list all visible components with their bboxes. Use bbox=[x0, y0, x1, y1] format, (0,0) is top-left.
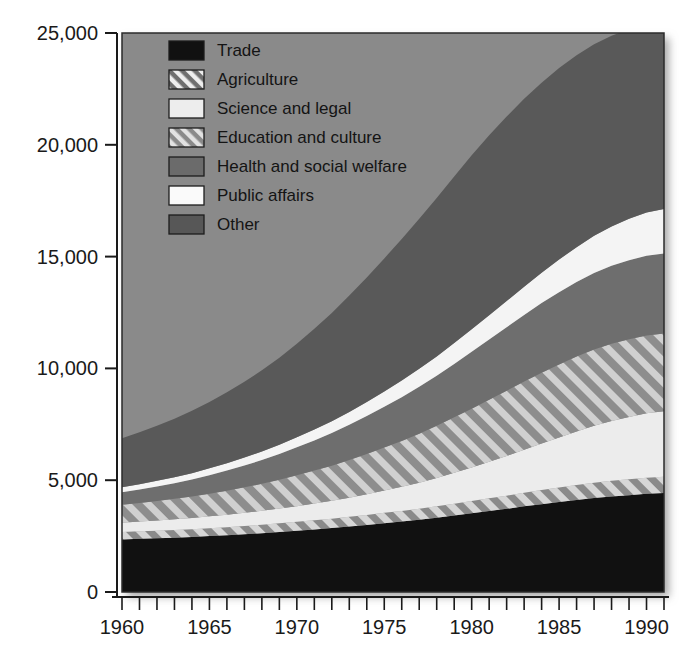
legend-label-public-affairs: Public affairs bbox=[217, 186, 314, 205]
legend-swatch-health-and-social-welfare bbox=[169, 157, 204, 176]
y-tick-label: 25,000 bbox=[37, 22, 98, 44]
x-tick-label: 1990 bbox=[624, 616, 669, 638]
legend-label-education-and-culture: Education and culture bbox=[217, 128, 381, 147]
y-tick-label: 20,000 bbox=[37, 134, 98, 156]
legend-swatch-other bbox=[169, 215, 204, 234]
legend-label-trade: Trade bbox=[217, 41, 261, 60]
x-tick-label: 1980 bbox=[449, 616, 494, 638]
x-tick-label: 1965 bbox=[187, 616, 232, 638]
y-tick-label: 5,000 bbox=[48, 469, 98, 491]
x-tick-label: 1975 bbox=[362, 616, 407, 638]
y-tick-label: 0 bbox=[87, 581, 98, 603]
y-tick-label: 10,000 bbox=[37, 357, 98, 379]
legend-swatch-education-and-culture bbox=[169, 128, 204, 147]
x-tick-label: 1960 bbox=[100, 616, 145, 638]
legend-label-health-and-social-welfare: Health and social welfare bbox=[217, 157, 407, 176]
legend-swatch-trade bbox=[169, 41, 204, 60]
legend-swatch-science-and-legal bbox=[169, 99, 204, 118]
legend-label-agriculture: Agriculture bbox=[217, 70, 298, 89]
x-tick-label: 1970 bbox=[275, 616, 320, 638]
legend-label-science-and-legal: Science and legal bbox=[217, 99, 351, 118]
legend-swatch-agriculture bbox=[169, 70, 204, 89]
legend-swatch-public-affairs bbox=[169, 186, 204, 205]
y-tick-label: 15,000 bbox=[37, 246, 98, 268]
x-tick-label: 1985 bbox=[537, 616, 582, 638]
legend-label-other: Other bbox=[217, 215, 260, 234]
chart-canvas: 05,00010,00015,00020,00025,000 196019651… bbox=[0, 0, 688, 660]
stacked-area-chart: 05,00010,00015,00020,00025,000 196019651… bbox=[0, 0, 688, 660]
